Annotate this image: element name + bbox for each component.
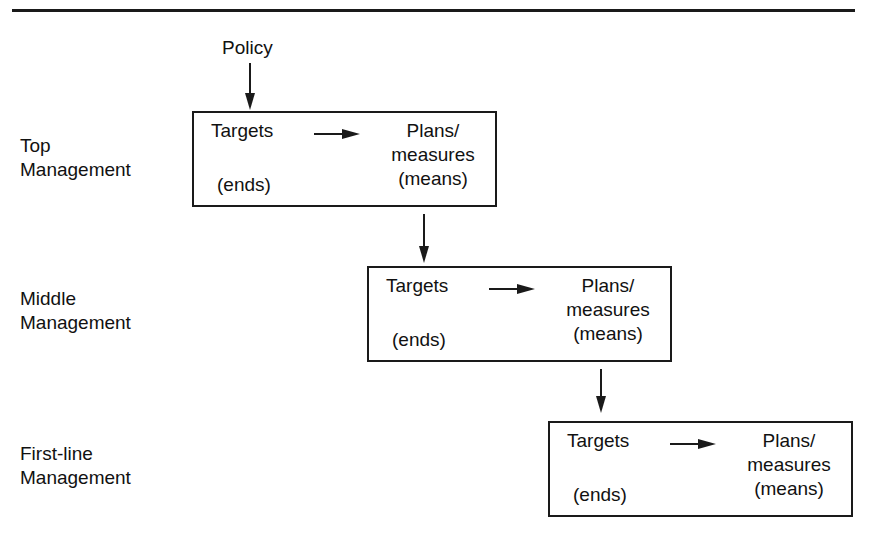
targets-label: Targets — [386, 274, 448, 298]
means-line: (means) — [730, 477, 848, 501]
policy-label: Policy — [222, 36, 273, 60]
level-label-line: Management — [20, 311, 131, 335]
means-line: (means) — [374, 167, 492, 191]
plans-measures-label: Plans/ measures (means) — [374, 119, 492, 191]
ends-label: (ends) — [573, 483, 627, 507]
plans-line: Plans/ — [374, 119, 492, 143]
ends-label: (ends) — [217, 173, 271, 197]
arrow-down-icon — [244, 63, 256, 111]
plans-line: Plans/ — [730, 429, 848, 453]
level-label-line: Management — [20, 466, 131, 490]
arrow-right-icon — [670, 439, 716, 449]
box-middle-management: Targets (ends) Plans/ measures (means) — [367, 266, 672, 362]
plans-measures-label: Plans/ measures (means) — [549, 274, 667, 346]
header-rule — [12, 9, 855, 12]
level-label-first-line-management: First-line Management — [20, 442, 131, 490]
measures-line: measures — [374, 143, 492, 167]
level-label-middle-management: Middle Management — [20, 287, 131, 335]
measures-line: measures — [730, 453, 848, 477]
arrow-right-icon — [314, 129, 360, 139]
level-label-line: First-line — [20, 442, 131, 466]
box-top-management: Targets (ends) Plans/ measures (means) — [192, 111, 497, 207]
arrow-down-icon — [595, 369, 607, 414]
means-line: (means) — [549, 322, 667, 346]
level-label-line: Top — [20, 134, 131, 158]
plans-measures-label: Plans/ measures (means) — [730, 429, 848, 501]
arrow-down-icon — [418, 214, 430, 264]
level-label-line: Management — [20, 158, 131, 182]
targets-label: Targets — [211, 119, 273, 143]
level-label-line: Middle — [20, 287, 131, 311]
targets-label: Targets — [567, 429, 629, 453]
level-label-top-management: Top Management — [20, 134, 131, 182]
plans-line: Plans/ — [549, 274, 667, 298]
measures-line: measures — [549, 298, 667, 322]
arrow-right-icon — [489, 284, 535, 294]
box-first-line-management: Targets (ends) Plans/ measures (means) — [548, 421, 853, 517]
ends-label: (ends) — [392, 328, 446, 352]
